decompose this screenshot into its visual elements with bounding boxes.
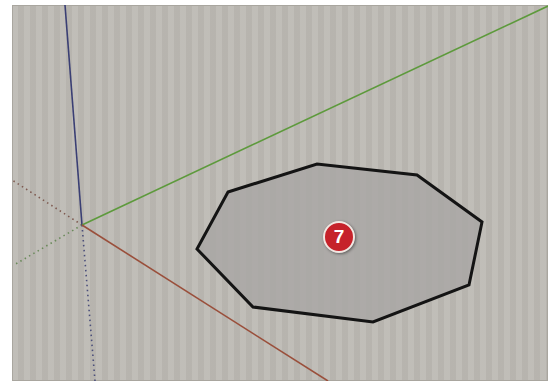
figure-frame: 7 bbox=[0, 0, 552, 387]
blue-axis bbox=[65, 5, 82, 225]
modeling-viewport[interactable]: 7 bbox=[12, 5, 548, 381]
blue-axis-dotted bbox=[82, 225, 95, 381]
red-axis-dotted bbox=[12, 180, 82, 225]
green-axis-dotted bbox=[14, 225, 82, 265]
step-badge: 7 bbox=[323, 221, 355, 253]
scene-canvas bbox=[12, 5, 548, 381]
step-number: 7 bbox=[334, 226, 345, 247]
